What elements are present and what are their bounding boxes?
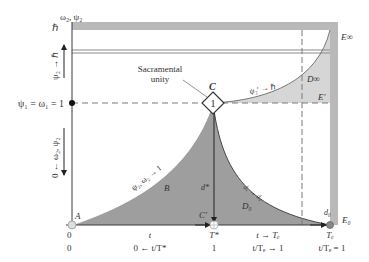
unity-label: unity: [151, 74, 170, 84]
region-d-zero-label: D₀: [241, 201, 252, 211]
y-axis-title: ω₂, ψ₂: [60, 12, 82, 22]
sacramental-unity-diagram: 1 ω₂, ψ₂ ℏ ψ₁ = ω₁ = 1 ψ₂ → ℏ 0 ← ω₂, ψ₂…: [0, 0, 369, 262]
d-star-label: d*: [201, 183, 209, 192]
point-a-marker: [68, 221, 76, 229]
region-b-label: B: [164, 183, 170, 193]
sacramental-label: Sacramental: [138, 64, 183, 74]
point-e-prime-label: E′: [317, 92, 326, 102]
x-te-label: Tₑ: [326, 230, 334, 240]
x-tstar-label: T*: [209, 230, 219, 240]
diamond-value: 1: [210, 97, 216, 109]
point-e0-marker: [327, 222, 334, 229]
x-origin-row2: 0: [67, 243, 72, 253]
x-ratio-zero-label: 0 ← t/T*: [134, 243, 167, 253]
down-arrow-label: 0 ← ω₂, ψ₂: [50, 138, 60, 178]
point-a-label: A: [74, 211, 81, 221]
right-band: [330, 22, 338, 225]
region-d-inf-label: D∞: [306, 74, 320, 84]
point-unity-dot: [69, 100, 75, 106]
x-origin-row1: 0: [67, 230, 72, 240]
point-e-inf-label: E∞: [340, 32, 353, 42]
point-e-zero-label: E₀: [341, 215, 351, 225]
point-c-prime-label: C′: [199, 210, 208, 220]
y-top-label: ℏ: [52, 22, 58, 33]
x-one-label: 1: [212, 243, 217, 253]
region-b-fill: [72, 103, 213, 225]
top-band: [72, 22, 338, 30]
x-ratio-eq-one-label: t/Tₑ = 1: [319, 243, 346, 253]
x-ratio-to-one-label: t/Tₑ → 1: [253, 243, 284, 253]
x-t-to-te-label: t → Tₑ: [256, 230, 280, 240]
up-arrow-label: ψ₂ → ℏ: [50, 52, 60, 80]
y-level-label: ψ₁ = ω₁ = 1: [18, 98, 64, 109]
sacramental-pointer: [183, 80, 207, 97]
d-zero-label: d₀: [324, 208, 331, 217]
x-t-label: t: [149, 230, 152, 240]
point-c-label: C: [209, 81, 216, 92]
